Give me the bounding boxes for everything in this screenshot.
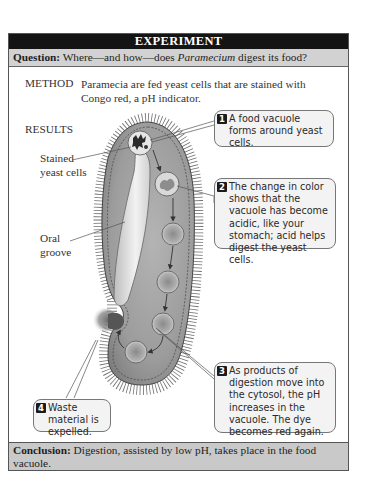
food-vacuole-3 <box>162 223 184 245</box>
callout-2: 2 The change in color shows that the vac… <box>214 178 336 249</box>
oral-groove-label: Oral groove <box>40 231 71 259</box>
step-number-1: 1 <box>217 114 227 124</box>
callout-3: 3 As products of digestion move into the… <box>214 362 336 433</box>
food-vacuole-5 <box>152 313 174 335</box>
step-number-4: 4 <box>36 403 46 413</box>
food-vacuole-4 <box>157 271 179 293</box>
step-number-2: 2 <box>217 182 227 192</box>
step-number-3: 3 <box>217 366 227 376</box>
callout-3-text: As products of digestion move into the c… <box>229 365 324 437</box>
food-vacuole-6 <box>125 341 147 363</box>
food-vacuole-acidic <box>155 172 179 196</box>
callout-4: 4 Waste material is expelled. <box>33 399 111 432</box>
callout-1-text: A food vacuole forms around yeast cells. <box>229 113 322 148</box>
callout-4-text: Waste material is expelled. <box>48 402 99 437</box>
food-vacuole-forming <box>128 131 152 155</box>
stained-yeast-label: Stained yeast cells <box>40 151 87 179</box>
callout-1: 1 A food vacuole forms around yeast cell… <box>214 110 334 147</box>
